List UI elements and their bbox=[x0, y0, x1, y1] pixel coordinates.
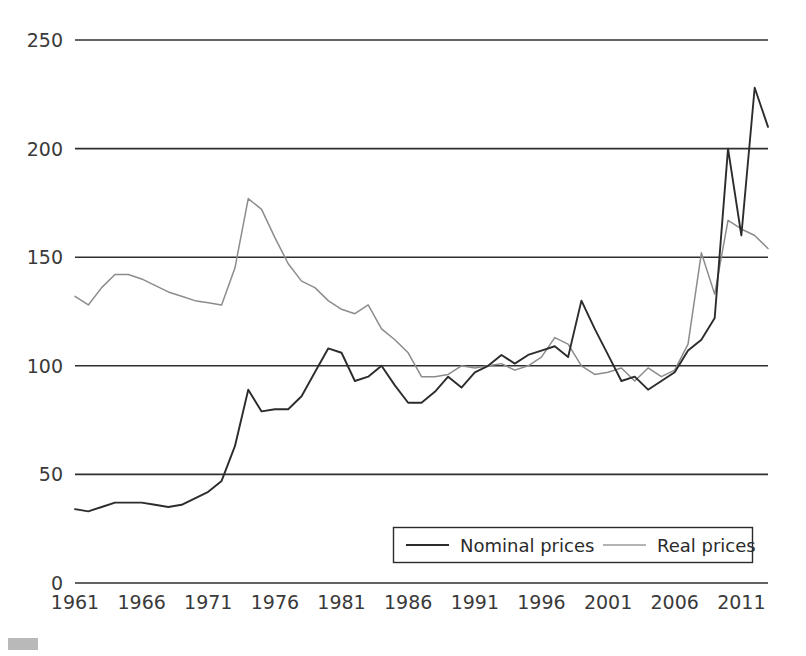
x-tick-label-1971: 1971 bbox=[184, 591, 232, 613]
chart-container: 250200150100500 196119661971197619811986… bbox=[0, 0, 806, 656]
x-tick-label-1976: 1976 bbox=[251, 591, 299, 613]
x-tick-label-2006: 2006 bbox=[651, 591, 699, 613]
x-tick-label-1986: 1986 bbox=[384, 591, 432, 613]
x-tick-label-1996: 1996 bbox=[517, 591, 565, 613]
y-tick-label-250: 250 bbox=[27, 29, 63, 51]
x-tick-label-1961: 1961 bbox=[51, 591, 99, 613]
chart-legend: Nominal prices Real prices bbox=[394, 528, 756, 563]
x-tick-label-2011: 2011 bbox=[717, 591, 765, 613]
x-axis-tick-labels: 1961196619711976198119861991199620012006… bbox=[51, 591, 766, 613]
y-tick-label-50: 50 bbox=[39, 463, 63, 485]
line-chart: 250200150100500 196119661971197619811986… bbox=[0, 0, 806, 656]
x-tick-label-1966: 1966 bbox=[117, 591, 165, 613]
gridlines bbox=[75, 40, 768, 583]
series-line-nominal-prices bbox=[75, 88, 768, 512]
y-tick-label-150: 150 bbox=[27, 246, 63, 268]
legend-label-nominal: Nominal prices bbox=[460, 535, 594, 556]
y-tick-label-200: 200 bbox=[27, 138, 63, 160]
x-tick-label-2001: 2001 bbox=[584, 591, 632, 613]
data-series bbox=[75, 88, 768, 512]
y-tick-label-100: 100 bbox=[27, 355, 63, 377]
x-tick-label-1991: 1991 bbox=[451, 591, 499, 613]
legend-label-real: Real prices bbox=[657, 535, 756, 556]
series-line-real-prices bbox=[75, 199, 768, 381]
y-axis-tick-labels: 250200150100500 bbox=[27, 29, 63, 594]
x-tick-label-1981: 1981 bbox=[317, 591, 365, 613]
footnote-marker bbox=[8, 638, 38, 650]
